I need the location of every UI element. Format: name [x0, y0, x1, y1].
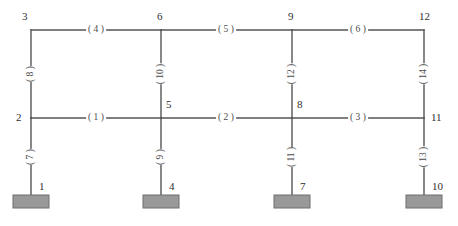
node-label-12: 12 — [419, 11, 430, 22]
member-label-2: ( 2 ) — [216, 113, 236, 123]
support-plate-node-4 — [143, 195, 179, 208]
node-label-4: 4 — [169, 181, 175, 192]
node-label-11: 11 — [431, 112, 442, 123]
node-label-3: 3 — [22, 11, 28, 22]
structural-frame-diagram: 123456789101112( 1 )( 2 )( 3 )( 4 )( 5 )… — [0, 0, 458, 226]
member-label-7: ( 7 ) — [24, 149, 38, 165]
support-plate-node-1 — [13, 195, 49, 208]
member-label-6: ( 6 ) — [348, 25, 368, 35]
member-label-12: ( 12 ) — [285, 64, 299, 85]
node-label-8: 8 — [297, 99, 303, 110]
member-label-3: ( 3 ) — [348, 113, 368, 123]
member-label-13: ( 13 ) — [417, 147, 431, 168]
node-label-6: 6 — [157, 11, 163, 22]
node-label-7: 7 — [300, 181, 306, 192]
member-label-1: ( 1 ) — [86, 113, 106, 123]
node-label-9: 9 — [288, 11, 294, 22]
node-label-10: 10 — [432, 181, 443, 192]
member-label-4: ( 4 ) — [86, 25, 106, 35]
member-label-5: ( 5 ) — [216, 25, 236, 35]
member-label-8: ( 8 ) — [24, 66, 38, 82]
member-label-14: ( 14 ) — [417, 64, 431, 85]
node-label-5: 5 — [166, 99, 172, 110]
member-label-11: ( 11 ) — [285, 147, 299, 167]
node-label-2: 2 — [16, 112, 22, 123]
support-plate-node-10 — [406, 195, 442, 208]
node-label-1: 1 — [39, 181, 45, 192]
member-label-10: ( 10 ) — [154, 64, 168, 85]
member-label-9: ( 9 ) — [154, 149, 168, 165]
support-plate-node-7 — [274, 195, 310, 208]
